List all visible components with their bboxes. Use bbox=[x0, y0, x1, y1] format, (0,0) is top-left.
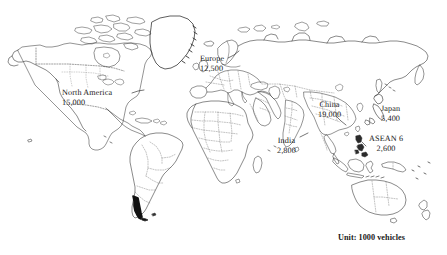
region-value-asean-6: 2,600 bbox=[369, 144, 403, 154]
region-value-japan: 5,400 bbox=[381, 114, 400, 124]
region-name-europe: Europe bbox=[200, 54, 224, 64]
region-value-north-america: 15,000 bbox=[62, 98, 112, 108]
unit-caption: Unit: 1000 vehicles bbox=[338, 233, 405, 242]
world-map-figure: North America 15,000 Europe 12,500 China… bbox=[0, 0, 447, 255]
region-label-europe: Europe 12,500 bbox=[200, 54, 224, 73]
region-value-china: 19,000 bbox=[318, 110, 341, 120]
region-label-north-america: North America 15,000 bbox=[62, 88, 112, 107]
region-label-japan: Japan 5,400 bbox=[381, 104, 400, 123]
region-name-china: China bbox=[318, 100, 341, 110]
region-label-china: China 19,000 bbox=[318, 100, 341, 119]
region-name-asean-6: ASEAN 6 bbox=[369, 134, 403, 144]
region-value-india: 2,800 bbox=[277, 146, 296, 156]
world-map-outline bbox=[0, 0, 447, 255]
region-name-india: India bbox=[277, 136, 296, 146]
region-value-europe: 12,500 bbox=[200, 64, 224, 74]
region-label-india: India 2,800 bbox=[277, 136, 296, 155]
region-name-north-america: North America bbox=[62, 88, 112, 98]
region-name-japan: Japan bbox=[381, 104, 400, 114]
region-label-asean-6: ASEAN 6 2,600 bbox=[369, 134, 403, 153]
